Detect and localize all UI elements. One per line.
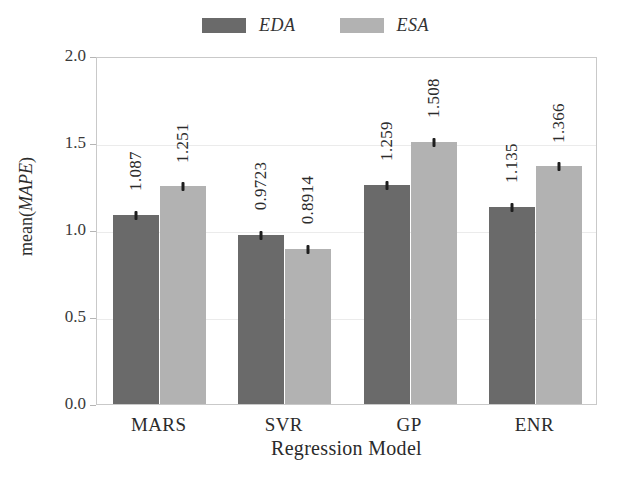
error-bar xyxy=(307,245,310,254)
x-axis-tick-labels: MARSSVRGPENR xyxy=(96,406,597,436)
bar-group-enr: 1.1351.366 xyxy=(489,58,582,404)
x-axis-tick-label-enr: ENR xyxy=(474,414,594,436)
legend-swatch-eda xyxy=(202,18,246,33)
x-axis-tick-label-svr: SVR xyxy=(224,414,344,436)
error-bar xyxy=(260,231,263,240)
x-axis-tick-label-mars: MARS xyxy=(99,414,219,436)
bar-mars-eda[interactable]: 1.087 xyxy=(113,215,159,404)
y-axis-tick-label: 2.0 xyxy=(0,46,86,66)
bar-enr-esa[interactable]: 1.366 xyxy=(536,166,582,404)
bar-value-label: 0.9723 xyxy=(251,162,271,211)
bar-value-label: 1.366 xyxy=(549,103,569,143)
bar-mars-esa[interactable]: 1.251 xyxy=(160,186,206,404)
bar-gp-esa[interactable]: 1.508 xyxy=(411,142,457,404)
legend-label-esa: ESA xyxy=(397,15,430,36)
bar-svr-eda[interactable]: 0.9723 xyxy=(238,235,284,404)
bar-texture xyxy=(364,185,410,404)
legend-swatch-esa xyxy=(340,18,384,33)
plot-area: 1.0871.2510.97230.89141.2591.5081.1351.3… xyxy=(96,57,597,405)
bars-layer: 1.0871.2510.97230.89141.2591.5081.1351.3… xyxy=(97,58,596,404)
bar-value-label: 1.135 xyxy=(502,143,522,183)
bar-value-label: 0.8914 xyxy=(298,176,318,225)
legend-label-eda: EDA xyxy=(259,15,296,36)
bar-svr-esa[interactable]: 0.8914 xyxy=(285,249,331,404)
bar-texture xyxy=(285,249,331,404)
y-axis-tick-label: 0.0 xyxy=(0,394,86,414)
bar-chart-figure: EDA ESA mean(MAPE) 0.00.51.01.52.0 1.087… xyxy=(0,0,631,481)
bar-texture xyxy=(113,215,159,404)
bar-value-label: 1.259 xyxy=(377,121,397,161)
error-bar xyxy=(557,162,560,171)
x-axis-label: Regression Model xyxy=(96,437,597,460)
error-bar xyxy=(432,138,435,147)
legend-entry-esa: ESA xyxy=(340,15,430,36)
error-bar xyxy=(510,203,513,212)
bar-gp-eda[interactable]: 1.259 xyxy=(364,185,410,404)
bar-value-label: 1.087 xyxy=(126,151,146,191)
bar-texture xyxy=(160,186,206,404)
y-axis-label-italic: MAPE xyxy=(16,163,36,211)
y-axis-tick-label: 1.0 xyxy=(0,220,86,240)
legend-entry-eda: EDA xyxy=(202,15,296,36)
bar-group-gp: 1.2591.508 xyxy=(364,58,457,404)
error-bar xyxy=(135,211,138,220)
y-axis-tick-label: 1.5 xyxy=(0,133,86,153)
bar-value-label: 1.251 xyxy=(173,123,193,163)
bar-texture xyxy=(536,166,582,404)
bar-enr-eda[interactable]: 1.135 xyxy=(489,207,535,404)
error-bar xyxy=(182,182,185,191)
bar-group-svr: 0.97230.8914 xyxy=(238,58,331,404)
y-axis-label-suffix: ) xyxy=(16,157,36,163)
bar-group-mars: 1.0871.251 xyxy=(113,58,206,404)
y-axis: mean(MAPE) 0.00.51.01.52.0 xyxy=(0,0,96,481)
y-axis-tick-label: 0.5 xyxy=(0,307,86,327)
error-bar xyxy=(385,181,388,190)
bar-texture xyxy=(238,235,284,404)
x-axis-tick-label-gp: GP xyxy=(349,414,469,436)
bar-texture xyxy=(489,207,535,404)
bar-value-label: 1.508 xyxy=(424,78,444,118)
bar-texture xyxy=(411,142,457,404)
